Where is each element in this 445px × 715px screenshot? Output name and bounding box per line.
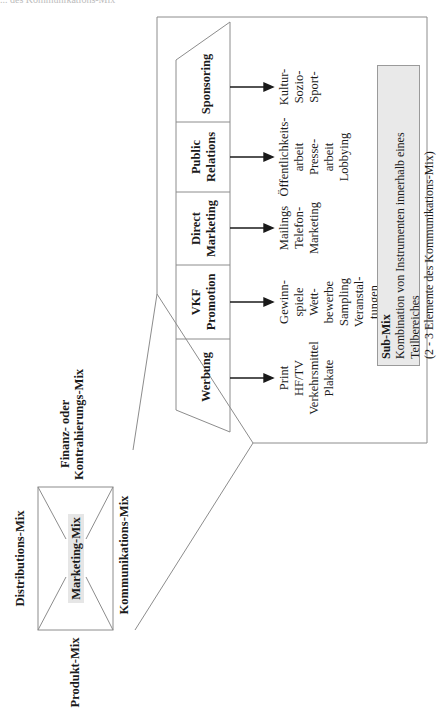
kommunikations-mix-label: Kommunikations-Mix [117,475,131,635]
marketing-mix-center: Marketing-Mix [66,487,84,630]
sub-mix-line1: Kombination von Instrumenten innerhalb e… [393,72,422,359]
sub-mix-title: Sub-Mix [379,72,393,359]
finanz-mix-label: Finanz- oder Kontrahierungs-Mix [58,340,87,480]
diagram-stage: Marketing-Mix Distributions-Mix Kommunik… [0,0,445,715]
diagonal-line [86,487,113,539]
arrow-head-icon [264,374,273,382]
column-title-vkf-promotion: VKF Promotion [180,265,228,339]
column-title-public-relations: Public Relations [180,122,228,192]
column-title-direct-marketing: Direct Marketing [180,192,228,265]
column-title-werbung: Werbung [186,339,226,415]
items-public-relations: Öffentlichkeits- arbeit Presse- arbeit L… [277,114,352,200]
connector-line [135,443,253,630]
diagonal-line [86,577,113,630]
diagonal-line [38,487,66,539]
produkt-mix-label: Produkt-Mix [68,630,82,715]
items-werbung: Print HF/TV Verkehrsmittel Plakate [277,333,337,423]
column-title-sponsoring: Sponsoring [186,46,226,122]
arrow-head-icon [264,298,273,306]
diagonal-line [38,577,66,630]
sub-mix-line2: (2 - 3 Elemente des Kommunikations-Mix) [422,72,436,359]
arrow-head-icon [264,224,273,232]
distributions-mix-label: Distributions-Mix [13,487,27,630]
arrow-head-icon [264,83,273,91]
items-sponsoring: Kultur- Sozio- Sport- [277,59,322,115]
connector-line [133,294,157,450]
items-vkf-promotion: Gewinn- spiele Wett- bewerbe Sampling Ve… [277,267,382,337]
items-direct-marketing: Mailings Telefon- Marketing [277,193,322,263]
arrow-head-icon [264,153,273,161]
sub-mix-box: Sub-Mix Kombination von Instrumenten inn… [377,65,420,366]
